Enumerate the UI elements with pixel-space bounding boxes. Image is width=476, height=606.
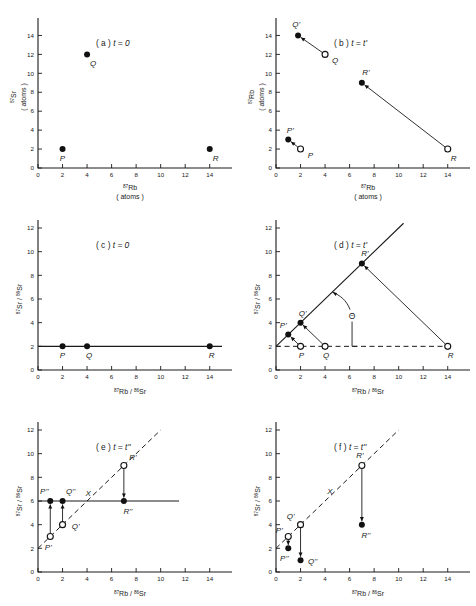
x-tick-label: 10 bbox=[157, 171, 164, 178]
svg-text:87Sr / 86Sr: 87Sr / 86Sr bbox=[254, 283, 262, 314]
data-point-label: R'' bbox=[123, 507, 132, 516]
x-tick-label: 4 bbox=[323, 171, 327, 178]
panel-a: 024681012140246810121487Rb( atoms )87Sr(… bbox=[0, 0, 238, 202]
panel-f: 0246810121402468101287Rb / 86Sr87Sr / 86… bbox=[238, 404, 476, 606]
x-tick-label: 10 bbox=[395, 171, 402, 178]
data-point[interactable]: R' bbox=[356, 451, 365, 469]
data-point-label: P bbox=[60, 351, 66, 360]
panel-e: 0246810121402468101287Rb / 86Sr87Sr / 86… bbox=[0, 404, 238, 606]
x-tick-label: 0 bbox=[274, 171, 278, 178]
svg-text:87Rb / 86Sr: 87Rb / 86Sr bbox=[114, 590, 147, 598]
x-tick-label: 12 bbox=[420, 575, 427, 582]
data-point[interactable]: R bbox=[445, 343, 454, 360]
x-tick-label: 6 bbox=[110, 373, 114, 380]
data-point[interactable]: Q'' bbox=[298, 557, 318, 566]
data-point[interactable]: Q bbox=[84, 51, 96, 68]
evolution-arrow bbox=[365, 85, 445, 147]
data-point-label: R bbox=[209, 351, 215, 360]
data-point[interactable]: P' bbox=[45, 534, 53, 552]
evolution-arrow bbox=[299, 528, 303, 557]
svg-text:87Sr: 87Sr bbox=[10, 90, 18, 103]
data-point[interactable]: R' bbox=[359, 68, 370, 86]
x-tick-label: 0 bbox=[274, 575, 278, 582]
data-point[interactable]: R' bbox=[121, 453, 137, 469]
data-point[interactable]: Q bbox=[322, 51, 338, 65]
data-point[interactable]: R'' bbox=[359, 522, 371, 540]
y-tick-label: 2 bbox=[31, 343, 35, 350]
x-axis-title: 87Rb( atoms ) bbox=[354, 184, 382, 202]
y-tick-label: 12 bbox=[27, 224, 34, 231]
evolution-arrow bbox=[291, 337, 298, 344]
evolution-arrow bbox=[303, 325, 323, 344]
evolution-arrow bbox=[48, 504, 52, 533]
data-point[interactable]: P bbox=[60, 343, 66, 360]
axes: 0246810121402468101214 bbox=[265, 18, 470, 178]
data-point[interactable]: R bbox=[445, 146, 457, 163]
y-tick-label: 10 bbox=[27, 248, 34, 255]
y-tick-label: 12 bbox=[27, 426, 34, 433]
axes: 02468101214024681012 bbox=[27, 220, 232, 380]
data-point-label: R bbox=[213, 154, 219, 163]
data-point[interactable]: P bbox=[60, 146, 66, 163]
svg-text:( atoms ): ( atoms ) bbox=[20, 83, 28, 111]
x-tick-label: 14 bbox=[206, 373, 213, 380]
data-point-label: R bbox=[451, 154, 457, 163]
y-tick-label: 6 bbox=[269, 295, 273, 302]
y-tick-label: 6 bbox=[269, 497, 273, 504]
y-tick-label: 0 bbox=[269, 164, 273, 171]
data-point[interactable]: P' bbox=[285, 126, 294, 143]
data-point-label: P bbox=[308, 151, 314, 160]
y-tick-label: 10 bbox=[265, 248, 272, 255]
x-axis-title: 87Rb( atoms ) bbox=[116, 184, 144, 202]
x-tick-label: 0 bbox=[36, 373, 40, 380]
y-axis-title: 87Rb( atoms ) bbox=[248, 83, 267, 111]
data-point-label: Q' bbox=[299, 309, 307, 318]
data-point[interactable]: P'' bbox=[280, 545, 291, 563]
panel-title: ( a ) t = 0 bbox=[96, 38, 130, 48]
x-tick-label: 8 bbox=[134, 171, 138, 178]
svg-text:87Rb / 86Sr: 87Rb / 86Sr bbox=[352, 388, 385, 396]
y-tick-label: 8 bbox=[269, 474, 273, 481]
svg-text:87Sr / 86Sr: 87Sr / 86Sr bbox=[254, 485, 262, 516]
data-point[interactable]: P bbox=[298, 343, 305, 360]
y-tick-label: 4 bbox=[31, 126, 35, 133]
data-point[interactable]: R bbox=[207, 146, 219, 163]
axes: 02468101214024681012 bbox=[265, 220, 470, 380]
y-tick-label: 0 bbox=[31, 366, 35, 373]
evolution-arrow bbox=[122, 469, 126, 498]
y-tick-label: 8 bbox=[31, 474, 35, 481]
x-tick-label: 14 bbox=[444, 171, 451, 178]
x-tick-label: 10 bbox=[157, 373, 164, 380]
x-tick-label: 0 bbox=[36, 575, 40, 582]
data-point[interactable]: P bbox=[298, 146, 314, 160]
x-tick-label: 10 bbox=[157, 575, 164, 582]
axes: 02468101214024681012 bbox=[265, 422, 470, 582]
y-tick-label: 4 bbox=[269, 521, 273, 528]
y-tick-label: 10 bbox=[27, 70, 34, 77]
data-point-label: R'' bbox=[361, 531, 370, 540]
x-axis-title: 87Rb / 86Sr bbox=[114, 388, 147, 396]
data-point[interactable]: Q bbox=[322, 343, 329, 360]
x-tick-label: 8 bbox=[134, 373, 138, 380]
x-tick-label: 6 bbox=[110, 171, 114, 178]
data-point-label: R' bbox=[361, 249, 369, 258]
data-point[interactable]: P' bbox=[280, 321, 291, 338]
x-tick-label: 10 bbox=[395, 373, 402, 380]
x-tick-label: 12 bbox=[182, 171, 189, 178]
data-point[interactable]: Q' bbox=[292, 20, 301, 38]
evolution-arrow bbox=[61, 504, 65, 521]
y-axis-title: 87Sr / 86Sr bbox=[16, 485, 24, 516]
data-point[interactable]: Q' bbox=[60, 522, 80, 531]
svg-text:87Rb / 86Sr: 87Rb / 86Sr bbox=[352, 590, 385, 598]
x-axis-title: 87Rb / 86Sr bbox=[352, 590, 385, 598]
y-tick-label: 2 bbox=[31, 545, 35, 552]
intersection-marker-x: X bbox=[326, 487, 333, 496]
data-point-label: Q bbox=[332, 56, 338, 65]
y-tick-label: 0 bbox=[269, 366, 273, 373]
data-point[interactable]: Q' bbox=[287, 512, 304, 528]
x-tick-label: 4 bbox=[323, 373, 327, 380]
svg-text:87Rb: 87Rb bbox=[361, 184, 375, 192]
panel-c: 0246810121402468101287Rb / 86Sr87Sr / 86… bbox=[0, 202, 238, 404]
data-point[interactable]: Q' bbox=[298, 309, 307, 326]
data-point[interactable]: P' bbox=[276, 526, 291, 540]
